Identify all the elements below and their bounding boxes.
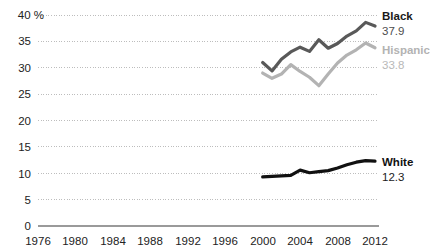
y-axis-tick-2: 30 (0, 63, 31, 75)
y-axis-tick-6: 10 (0, 169, 31, 181)
y-axis-tick-0: 40 % (0, 10, 44, 22)
chart-container: 40 % 35 30 25 20 15 10 5 0 1976 1980 198… (0, 0, 430, 252)
y-axis-tick-7: 5 (0, 195, 31, 207)
y-axis-tick-5: 15 (0, 142, 31, 154)
chart-plot-area (0, 0, 430, 252)
series-label-black: Black (382, 11, 413, 23)
y-axis-tick-4: 20 (0, 116, 31, 128)
series-label-white: White (382, 157, 413, 169)
y-axis-tick-8: 0 (0, 221, 31, 233)
y-axis-tick-1: 35 (0, 36, 31, 48)
y-axis-tick-3: 25 (0, 89, 31, 101)
series-value-white: 12.3 (382, 172, 404, 184)
series-line-hispanic (263, 43, 375, 86)
series-value-black: 37.9 (382, 26, 404, 38)
series-label-hispanic: Hispanic (382, 45, 430, 57)
x-axis-tick-2012: 2012 (353, 236, 397, 248)
series-line-white (263, 161, 375, 177)
series-value-hispanic: 33.8 (382, 60, 404, 72)
